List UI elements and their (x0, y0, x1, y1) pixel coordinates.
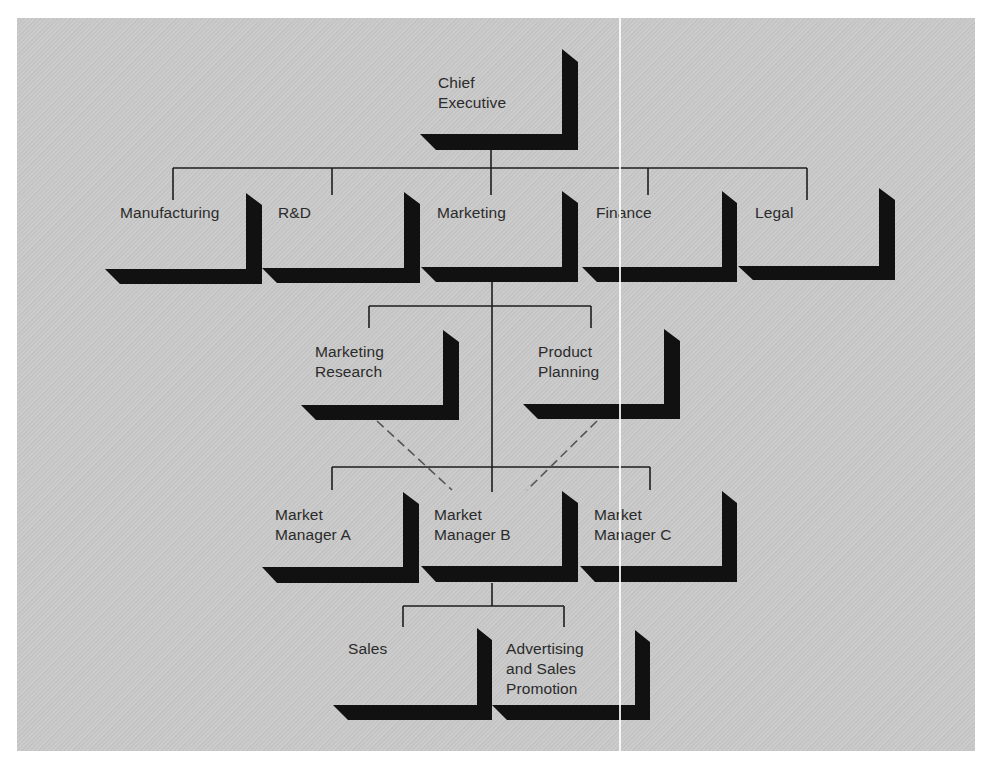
node-label-market-manager-a: Market Manager A (275, 505, 351, 545)
node-label-legal: Legal (755, 203, 793, 223)
dashed-staff-links (377, 421, 597, 490)
node-label-marketing-research: Marketing Research (315, 342, 384, 382)
node-label-finance: Finance (596, 203, 652, 223)
box-legal (738, 188, 895, 280)
node-label-market-manager-c: Market Manager C (594, 505, 672, 545)
node-label-chief-executive: Chief Executive (438, 73, 506, 113)
org-chart-graphics (0, 0, 992, 767)
node-label-advertising: Advertising and Sales Promotion (506, 639, 584, 699)
node-label-product-planning: Product Planning (538, 342, 599, 382)
node-label-marketing: Marketing (437, 203, 506, 223)
dashed-link-planning-to-mmb (527, 421, 597, 490)
box-shadows (105, 49, 895, 720)
org-chart-canvas: Chief Executive Manufacturing R&D Market… (0, 0, 992, 767)
node-label-sales: Sales (348, 639, 387, 659)
dashed-link-research-to-mmb (377, 421, 452, 490)
node-label-manufacturing: Manufacturing (120, 203, 220, 223)
node-label-market-manager-b: Market Manager B (434, 505, 511, 545)
node-label-rd: R&D (278, 203, 311, 223)
